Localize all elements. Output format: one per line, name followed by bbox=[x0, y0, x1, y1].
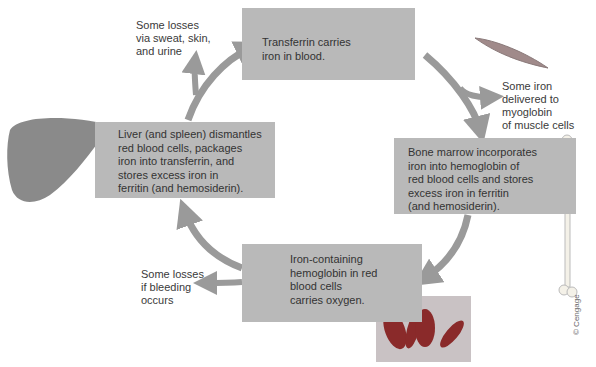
arrow-marrow-to-hemoglobin bbox=[425, 215, 468, 278]
arrow-bleeding-loss bbox=[205, 282, 242, 283]
hemoglobin-box: Iron-containing hemoglobin in red blood … bbox=[242, 244, 422, 322]
sweat-losses-label: Some losses via sweat, skin, and urine bbox=[136, 19, 211, 58]
myoglobin-label: Some iron delivered to myoglobin of musc… bbox=[502, 80, 574, 132]
bleeding-losses-label: Some losses if bleeding occurs bbox=[141, 268, 204, 307]
liver-box: Liver (and spleen) dismantles red blood … bbox=[95, 122, 275, 198]
transferrin-text: Transferrin carries iron in blood. bbox=[262, 36, 351, 63]
transferrin-box: Transferrin carries iron in blood. bbox=[242, 8, 415, 80]
credit: © Cengage bbox=[572, 294, 581, 335]
hemoglobin-text: Iron-containing hemoglobin in red blood … bbox=[290, 253, 377, 307]
liver-text: Liver (and spleen) dismantles red blood … bbox=[118, 128, 262, 196]
bone-marrow-box: Bone marrow incorporates iron into hemog… bbox=[394, 138, 576, 214]
bone-marrow-text: Bone marrow incorporates iron into hemog… bbox=[408, 146, 537, 214]
arrow-sweat-loss bbox=[195, 62, 196, 95]
arrow-hemoglobin-to-liver bbox=[185, 212, 242, 268]
muscle-illustration bbox=[475, 38, 548, 68]
